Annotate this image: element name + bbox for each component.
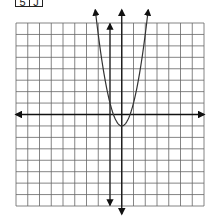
coordinate-graph <box>0 0 213 221</box>
